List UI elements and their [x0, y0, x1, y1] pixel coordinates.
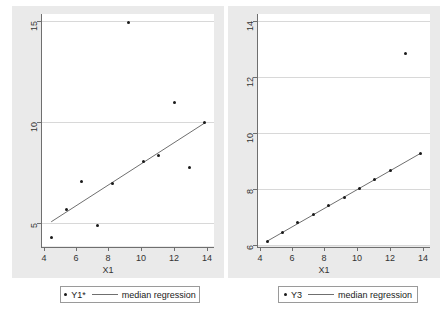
data-point — [266, 240, 269, 243]
data-point — [389, 169, 392, 172]
right-legend-marker-label: Y3 — [291, 290, 302, 300]
figure-root: 15 10 5 4 6 8 10 12 14 X1 Y1* median reg… — [0, 0, 448, 320]
data-point — [343, 196, 346, 199]
right-legend-line-icon — [308, 294, 334, 295]
data-point — [358, 187, 361, 190]
right-legend-marker-icon — [284, 293, 287, 296]
right-legend-line-item: median regression — [308, 290, 412, 300]
right-legend-line-label: median regression — [338, 290, 412, 300]
right-legend: Y3 median regression — [278, 286, 418, 303]
right-regression-line — [0, 0, 448, 320]
right-legend-marker-item: Y3 — [284, 290, 302, 300]
